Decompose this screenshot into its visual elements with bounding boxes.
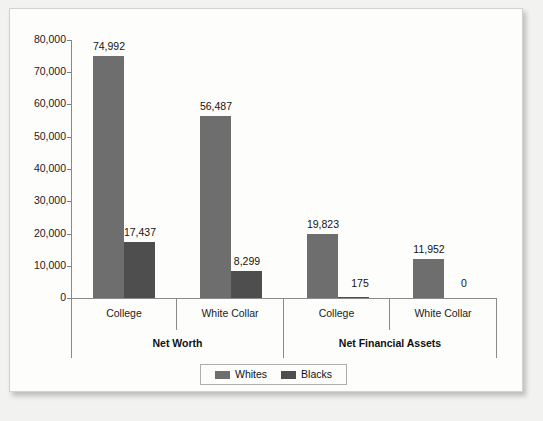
legend-swatch-blacks-icon: [281, 371, 296, 379]
bar-whites-net-worth-white-collar[interactable]: [200, 116, 231, 298]
legend-swatch-whites-icon: [215, 371, 230, 379]
value-label-whites-net-financial-assets-college: 19,823: [295, 219, 351, 230]
bar-blacks-net-worth-college[interactable]: [124, 242, 155, 298]
value-label-blacks-net-financial-assets-college: 175: [340, 278, 380, 289]
value-label-blacks-net-worth-college: 17,437: [112, 227, 168, 238]
legend-label-whites: Whites: [235, 369, 267, 380]
bar-whites-net-financial-assets-white-collar[interactable]: [413, 259, 444, 298]
legend-item-whites[interactable]: Whites: [215, 369, 267, 380]
category-label-net-financial-assets-college: College: [284, 307, 389, 319]
bar-whites-net-financial-assets-college[interactable]: [307, 234, 338, 298]
value-label-blacks-net-financial-assets-white-collar: 0: [449, 278, 479, 289]
legend-item-blacks[interactable]: Blacks: [281, 369, 332, 380]
group-label-net-worth: Net Worth: [72, 337, 283, 349]
value-label-blacks-net-worth-white-collar: 8,299: [221, 256, 273, 267]
category-label-net-worth-white-collar: White Collar: [177, 307, 283, 319]
bar-blacks-net-worth-white-collar[interactable]: [231, 271, 262, 298]
bar-chart: 80,000 70,000 60,000 50,000 40,000 30,00…: [0, 0, 543, 421]
axis-end-separator: [496, 298, 497, 358]
chart-page: 80,000 70,000 60,000 50,000 40,000 30,00…: [0, 0, 543, 421]
category-label-net-worth-college: College: [72, 307, 176, 319]
group-label-net-financial-assets: Net Financial Assets: [284, 337, 496, 349]
bar-whites-net-worth-college[interactable]: [93, 56, 124, 298]
bar-blacks-net-financial-assets-college[interactable]: [338, 297, 369, 298]
category-label-net-financial-assets-white-collar: White Collar: [390, 307, 496, 319]
legend-label-blacks: Blacks: [301, 369, 332, 380]
chart-legend: Whites Blacks: [200, 364, 347, 385]
value-label-whites-net-worth-white-collar: 56,487: [188, 101, 244, 112]
value-label-whites-net-worth-college: 74,992: [81, 41, 137, 52]
value-label-whites-net-financial-assets-white-collar: 11,952: [401, 244, 457, 255]
